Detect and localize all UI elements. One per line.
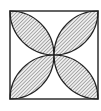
petal-bottom-left [10, 55, 54, 99]
petal-top-left [10, 11, 54, 55]
petal-bottom-right [54, 55, 98, 99]
petals [10, 11, 98, 99]
square-petal-diagram [0, 0, 101, 111]
petal-top-right [54, 11, 98, 55]
